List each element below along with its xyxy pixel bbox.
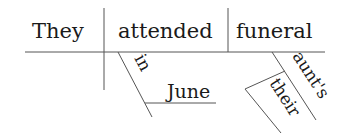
subject-word: They (32, 19, 84, 43)
preposition-word: in (130, 50, 155, 74)
object-word: funeral (236, 19, 313, 43)
sentence-diagram: They attended funeral in June aunt's the… (0, 0, 347, 135)
verb-word: attended (118, 19, 213, 43)
nested-modifier-word: their (266, 74, 306, 120)
preposition-object-word: June (165, 80, 210, 102)
